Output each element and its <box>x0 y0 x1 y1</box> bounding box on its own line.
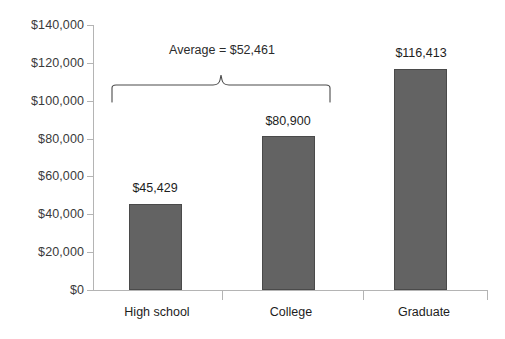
ytick-label-60000: $60,000 <box>8 169 84 183</box>
bar-high-school <box>129 204 182 290</box>
average-brace-icon <box>105 72 345 108</box>
bar-value-college: $80,900 <box>265 114 310 128</box>
category-separator-3 <box>487 291 488 300</box>
x-axis-line <box>93 290 488 291</box>
y-axis-line <box>93 25 94 291</box>
category-label-high-school: High school <box>124 305 189 319</box>
average-annotation-label: Average = $52,461 <box>169 43 275 57</box>
bar-college <box>262 136 315 290</box>
bar-value-graduate: $116,413 <box>395 46 446 60</box>
ytick-label-40000: $40,000 <box>8 207 84 221</box>
bar-chart: $140,000 $120,000 $100,000 $80,000 $60,0… <box>0 0 505 339</box>
ytick-label-20000: $20,000 <box>8 245 84 259</box>
ytick-label-120000: $120,000 <box>8 56 84 70</box>
bar-graduate <box>394 69 447 290</box>
category-label-graduate: Graduate <box>398 305 450 319</box>
ytick-label-80000: $80,000 <box>8 132 84 146</box>
ytick-label-100000: $100,000 <box>8 94 84 108</box>
category-separator-1 <box>222 291 223 300</box>
ytick-label-140000: $140,000 <box>8 18 84 32</box>
category-label-college: College <box>270 305 312 319</box>
bar-value-high-school: $45,429 <box>132 181 177 195</box>
ytick-label-0: $0 <box>8 283 84 297</box>
category-separator-2 <box>363 291 364 300</box>
